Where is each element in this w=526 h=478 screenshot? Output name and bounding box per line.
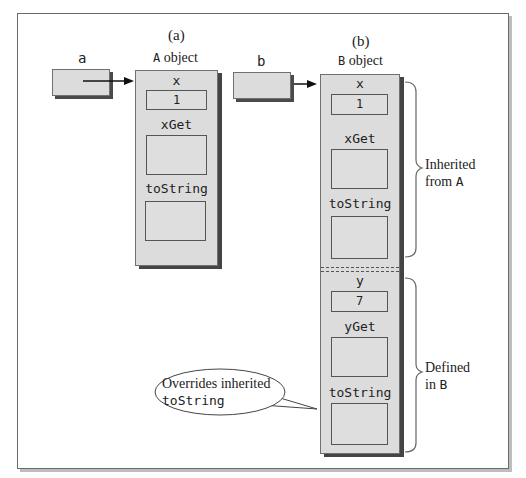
inherited-field-value-x: 1 <box>332 97 387 111</box>
callout-text: Overrides inherited toString <box>162 375 270 409</box>
method-slot-tostring <box>145 201 206 241</box>
brace-defined-icon <box>405 278 422 452</box>
brace-inherited-icon <box>405 82 422 257</box>
field-slot-x: 1 <box>146 90 207 110</box>
variable-label-b: b <box>257 53 265 69</box>
method-slot-xget <box>146 135 207 175</box>
inherited-field-slot-x: 1 <box>331 94 388 115</box>
inherited-annotation-line1: Inherited <box>425 156 476 173</box>
inherited-field-label-x: x <box>321 76 399 91</box>
inherited-method-label-xget: xGet <box>321 131 399 146</box>
inherited-annotation: Inherited from A <box>425 156 476 190</box>
object-title-b: B object <box>338 53 383 69</box>
reference-box-b <box>233 72 291 99</box>
object-title-a: A object <box>153 50 198 66</box>
field-value-x: 1 <box>147 93 206 107</box>
object-class-b: B <box>338 54 345 68</box>
object-word-a: object <box>164 50 198 65</box>
defined-field-value-y: 7 <box>332 294 387 308</box>
defined-method-slot-yget <box>331 337 388 377</box>
section-separator <box>321 267 399 272</box>
method-label-tostring: toString <box>136 181 217 196</box>
defined-field-slot-y: 7 <box>331 291 388 312</box>
defined-method-label-yget: yGet <box>321 319 399 334</box>
object-word-b: object <box>349 53 383 68</box>
object-a: x 1 xGet toString <box>135 70 218 266</box>
inherited-annotation-line2: from A <box>425 173 476 190</box>
object-class-a: A <box>153 51 160 65</box>
defined-annotation: Defined in B <box>425 359 470 393</box>
defined-method-slot-tostring <box>331 403 388 445</box>
inherited-method-slot-xget <box>331 149 388 189</box>
defined-annotation-line2: in B <box>425 376 470 393</box>
defined-field-label-y: y <box>321 273 399 288</box>
arrow-a-icon <box>83 77 134 85</box>
defined-method-label-tostring: toString <box>321 385 399 400</box>
inherited-method-label-tostring: toString <box>321 196 399 211</box>
callout-line1: Overrides inherited <box>162 375 270 392</box>
callout-line2: toString <box>162 392 270 409</box>
inherited-method-slot-tostring <box>331 216 388 259</box>
method-label-xget: xGet <box>136 117 217 132</box>
object-b: x 1 xGet toString y 7 yGet toString <box>320 74 400 454</box>
field-label-x: x <box>136 73 217 88</box>
defined-annotation-line1: Defined <box>425 359 470 376</box>
